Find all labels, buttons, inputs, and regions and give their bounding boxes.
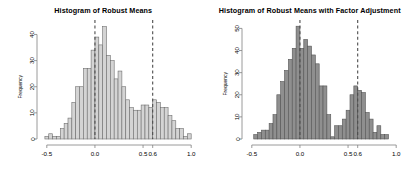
y-axis-tick-label: 0	[29, 137, 36, 141]
chart-histogram-robust-means-factor-adjustment: 01020304050Frequency-0.50.00.50.61.0	[207, 0, 413, 172]
histogram-bars	[253, 26, 388, 139]
chart-histogram-robust-means: 010203040Frequency-0.50.00.50.61.0	[0, 0, 206, 172]
histogram-bar	[261, 130, 265, 139]
histogram-bar	[357, 90, 361, 139]
panel-left-histogram: Histogram of Robust Means 010203040Frequ…	[0, 0, 207, 172]
histogram-bar	[110, 61, 114, 139]
y-axis-tick-label: 30	[233, 69, 240, 76]
histogram-bar	[72, 102, 76, 139]
histogram-bar	[160, 108, 164, 139]
histogram-bar	[83, 68, 87, 139]
histogram-bar	[311, 55, 315, 139]
x-axis-tick-label: 1.0	[187, 150, 196, 157]
histogram-bar	[280, 82, 284, 140]
histogram-bar	[145, 105, 149, 139]
histogram-bar	[330, 137, 334, 139]
histogram-bar	[257, 132, 261, 139]
x-axis-tick-label: 0.5	[343, 150, 352, 157]
histogram-bar	[376, 126, 380, 139]
histogram-bar	[95, 37, 99, 139]
histogram-bar	[272, 115, 276, 139]
histogram-bar	[365, 112, 369, 139]
histogram-bar	[133, 110, 137, 139]
histogram-bar	[284, 70, 288, 139]
histogram-bar	[342, 119, 346, 139]
y-axis-tick-label: 40	[29, 30, 36, 37]
histogram-bar	[157, 102, 161, 139]
histogram-bars	[45, 27, 191, 139]
histogram-bar	[80, 87, 84, 139]
y-axis-tick-label: 40	[233, 47, 240, 54]
x-axis-tick-label: -0.5	[41, 150, 52, 157]
x-axis-tick-label: -0.5	[246, 150, 257, 157]
histogram-bar	[68, 118, 72, 139]
histogram-bar	[361, 93, 365, 139]
x-axis-tick-label: 0.0	[295, 150, 304, 157]
histogram-bar	[303, 39, 307, 139]
histogram-bar	[349, 95, 353, 139]
histogram-bar	[334, 126, 338, 139]
histogram-bar	[380, 135, 384, 139]
histogram-bar	[49, 134, 53, 139]
histogram-bar	[292, 48, 296, 139]
y-axis-tick-label: 10	[233, 113, 240, 120]
x-axis-tick-label: 0.6	[148, 150, 157, 157]
histogram-bar	[99, 45, 103, 139]
histogram-bar	[149, 108, 153, 139]
histogram-bar	[153, 100, 157, 139]
histogram-bar	[307, 46, 311, 139]
histogram-bar	[141, 105, 145, 139]
y-axis-tick-label: 20	[29, 83, 36, 90]
histogram-bar	[176, 129, 180, 139]
histogram-bar	[56, 136, 60, 139]
histogram-bar	[122, 87, 126, 139]
y-axis-tick-label: 20	[233, 91, 240, 98]
x-axis-tick-label: 0.0	[91, 150, 100, 157]
y-axis-tick-label: 0	[233, 137, 240, 141]
histogram-bar	[373, 132, 377, 139]
histogram-bar	[353, 86, 357, 139]
histogram-bar	[319, 86, 323, 139]
histogram-bar	[369, 119, 373, 139]
histogram-bar	[253, 135, 257, 139]
histogram-bar	[187, 134, 191, 139]
histogram-bar	[296, 26, 300, 139]
histogram-bar	[338, 126, 342, 139]
histogram-bar	[323, 86, 327, 139]
panel-right-histogram: Histogram of Robust Means with Factor Ad…	[207, 0, 413, 172]
histogram-bar	[106, 55, 110, 139]
histogram-bar	[384, 135, 388, 139]
histogram-bar	[137, 110, 141, 139]
histogram-bar	[269, 124, 273, 139]
histogram-bar	[87, 68, 91, 139]
histogram-bar	[76, 87, 80, 139]
y-axis-title: Frequency	[222, 71, 228, 95]
histogram-bar	[326, 115, 330, 139]
histogram-bar	[60, 129, 64, 139]
x-axis-tick-label: 1.0	[391, 150, 400, 157]
histogram-bar	[346, 110, 350, 139]
histogram-bar	[45, 136, 49, 139]
histogram-bar	[288, 59, 292, 139]
histogram-bar	[130, 108, 134, 139]
histogram-bar	[315, 64, 319, 139]
histogram-bar	[265, 130, 269, 139]
x-axis-tick-label: 0.5	[139, 150, 148, 157]
histogram-bar	[103, 27, 107, 139]
x-axis-tick-label: 0.6	[353, 150, 362, 157]
histogram-bar	[118, 71, 122, 139]
histogram-bar	[180, 129, 184, 139]
histogram-bar	[164, 108, 168, 139]
histogram-bar	[168, 115, 172, 139]
histogram-bar	[126, 100, 130, 139]
y-axis-tick-label: 50	[233, 24, 240, 31]
histogram-bar	[64, 123, 68, 139]
y-axis-tick-label: 30	[29, 57, 36, 64]
histogram-bar	[91, 50, 95, 139]
histogram-bar	[53, 136, 57, 139]
histogram-bar	[114, 79, 118, 139]
histogram-bar	[172, 121, 176, 139]
histogram-bar	[183, 136, 187, 139]
y-axis-title: Frequency	[17, 74, 23, 98]
y-axis-tick-label: 10	[29, 109, 36, 116]
